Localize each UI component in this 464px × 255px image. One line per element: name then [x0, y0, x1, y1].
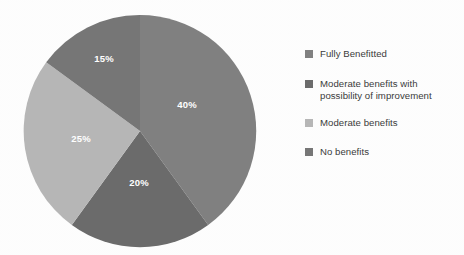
pie-slice-label-40: 40%	[177, 99, 197, 110]
pie-chart-plot-area: 40% 20% 25% 15%	[0, 0, 290, 255]
pie-chart-svg: 40% 20% 25% 15%	[0, 0, 290, 255]
legend-item-fully-benefitted[interactable]: Fully Benefitted	[305, 48, 460, 61]
legend-item-moderate-benefits[interactable]: Moderate benefits	[305, 117, 460, 130]
legend-item-moderate-benefits-with-possibility[interactable]: Moderate benefits with possibility of im…	[305, 78, 460, 103]
pie-slice-label-20: 20%	[129, 177, 149, 188]
legend-item-label: No benefits	[320, 146, 369, 159]
legend-swatch-icon	[305, 50, 313, 58]
chart-legend: Fully Benefitted Moderate benefits with …	[305, 48, 460, 176]
legend-item-label: Moderate benefits with possibility of im…	[320, 78, 432, 103]
legend-swatch-icon	[305, 148, 313, 156]
legend-item-label: Fully Benefitted	[320, 48, 387, 61]
legend-swatch-icon	[305, 119, 313, 127]
pie-chart-figure: 40% 20% 25% 15% Fully Benefitted Moderat…	[0, 0, 464, 255]
pie-slice-label-25: 25%	[71, 133, 91, 144]
legend-item-no-benefits[interactable]: No benefits	[305, 146, 460, 159]
legend-item-label: Moderate benefits	[320, 117, 398, 130]
legend-swatch-icon	[305, 80, 313, 88]
pie-slice-label-15: 15%	[94, 53, 114, 64]
